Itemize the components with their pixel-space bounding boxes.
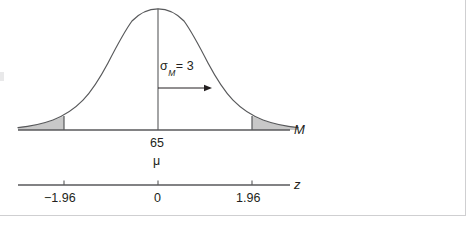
z-tick-label-negative: −1.96 [44, 192, 76, 205]
sigma-subscript: M [168, 68, 175, 78]
standard-error-label: σM = 3 [160, 60, 194, 75]
mean-symbol-label: μ [153, 155, 160, 168]
mean-value-label: 65 [150, 137, 164, 150]
standard-error-arrow-head [204, 85, 212, 91]
sigma-symbol: σ [160, 59, 168, 73]
z-axis-label: z [294, 178, 301, 191]
z-tick-label-positive: 1.96 [236, 192, 260, 205]
m-axis-label: M [294, 123, 305, 136]
sigma-equals-value: = 3 [176, 59, 194, 73]
z-tick-label-zero: 0 [154, 192, 161, 205]
figure-container: σM = 3 M z 65 μ −1.96 0 1.96 [0, 0, 476, 235]
